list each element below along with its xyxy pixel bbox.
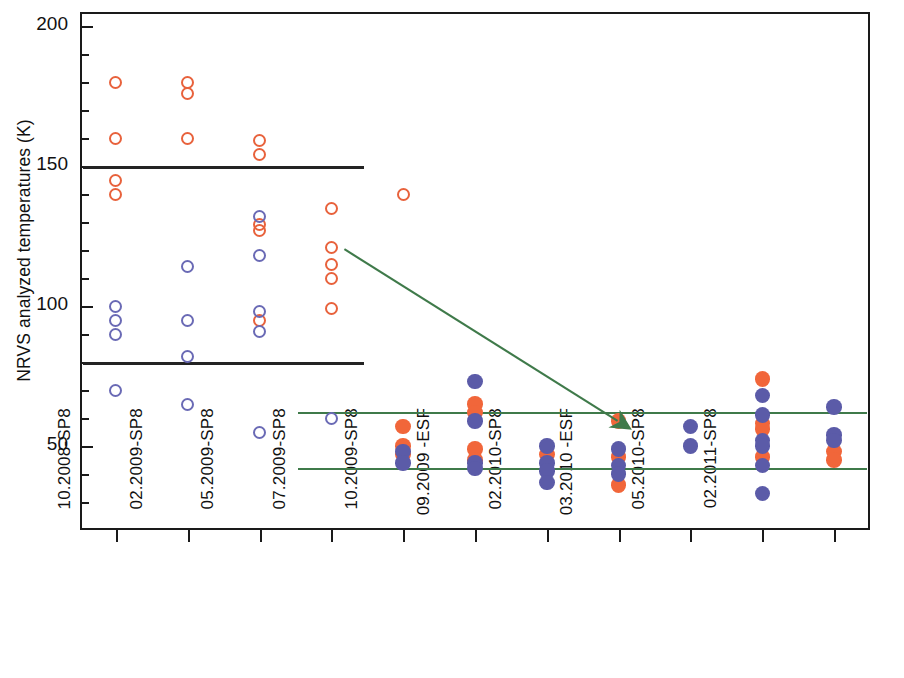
x-tick-label: 10.2008-SP8 bbox=[55, 408, 75, 548]
data-point bbox=[397, 188, 410, 201]
data-point bbox=[325, 202, 338, 215]
y-tick-label: 200 bbox=[8, 13, 68, 35]
y-tick-minor bbox=[80, 334, 89, 336]
x-tick bbox=[188, 530, 190, 542]
y-tick-label: 150 bbox=[8, 153, 68, 175]
data-point bbox=[826, 399, 842, 415]
x-tick bbox=[116, 530, 118, 542]
x-tick-label: 05.2010-SP8 bbox=[629, 408, 649, 548]
data-point bbox=[611, 441, 627, 457]
data-point bbox=[109, 328, 122, 341]
data-point bbox=[826, 433, 842, 449]
data-point bbox=[109, 76, 122, 89]
data-point bbox=[755, 438, 771, 454]
x-tick bbox=[762, 530, 764, 542]
y-tick-minor bbox=[80, 138, 89, 140]
x-tick bbox=[403, 530, 405, 542]
y-tick-label: 100 bbox=[8, 293, 68, 315]
data-point bbox=[109, 174, 122, 187]
data-point bbox=[253, 426, 266, 439]
y-tick-minor bbox=[80, 502, 89, 504]
y-tick-minor bbox=[80, 82, 89, 84]
x-tick bbox=[619, 530, 621, 542]
data-point bbox=[181, 398, 194, 411]
x-tick-label: 05.2009-SP8 bbox=[198, 408, 218, 548]
x-tick bbox=[547, 530, 549, 542]
y-tick-major bbox=[80, 306, 93, 308]
y-tick-minor bbox=[80, 194, 89, 196]
reference-line-lower-spec-black bbox=[83, 362, 365, 365]
data-point bbox=[467, 461, 483, 477]
y-tick-minor bbox=[80, 390, 89, 392]
data-point bbox=[109, 132, 122, 145]
y-tick-major bbox=[80, 26, 93, 28]
y-tick-minor bbox=[80, 110, 89, 112]
data-point bbox=[109, 300, 122, 313]
x-tick bbox=[331, 530, 333, 542]
data-point bbox=[755, 371, 771, 387]
data-point bbox=[181, 314, 194, 327]
x-tick-label: 09.2007-SP8 bbox=[0, 408, 3, 548]
data-point bbox=[109, 188, 122, 201]
data-point bbox=[539, 438, 555, 454]
reference-line-upper-spec-black bbox=[83, 166, 365, 169]
data-point bbox=[181, 132, 194, 145]
x-tick bbox=[260, 530, 262, 542]
data-point bbox=[253, 325, 266, 338]
y-tick-minor bbox=[80, 250, 89, 252]
data-point bbox=[253, 224, 266, 237]
x-tick bbox=[834, 530, 836, 542]
x-tick-label: 02.2009-SP8 bbox=[127, 408, 147, 548]
y-tick-minor bbox=[80, 222, 89, 224]
y-tick-minor bbox=[80, 278, 89, 280]
data-point bbox=[181, 87, 194, 100]
data-point bbox=[109, 384, 122, 397]
x-tick-label: 07.2009-SP8 bbox=[270, 408, 290, 548]
scatter-chart-figure: NRVS analyzed temperatures (K) 501001502… bbox=[0, 0, 904, 678]
improvement-arrow-icon bbox=[331, 230, 631, 440]
x-tick-label: 02.2011-SP8 bbox=[701, 408, 721, 548]
data-point bbox=[395, 455, 411, 471]
data-point bbox=[683, 438, 699, 454]
data-point bbox=[253, 210, 266, 223]
data-point bbox=[611, 466, 627, 482]
y-tick-minor bbox=[80, 418, 89, 420]
y-tick-minor bbox=[80, 474, 89, 476]
y-tick-major bbox=[80, 446, 93, 448]
x-tick bbox=[690, 530, 692, 542]
data-point bbox=[539, 475, 555, 491]
data-point bbox=[109, 314, 122, 327]
data-point bbox=[755, 407, 771, 423]
x-tick bbox=[475, 530, 477, 542]
data-point bbox=[826, 452, 842, 468]
y-tick-minor bbox=[80, 54, 89, 56]
reference-line-lower-spec-green bbox=[298, 468, 867, 470]
